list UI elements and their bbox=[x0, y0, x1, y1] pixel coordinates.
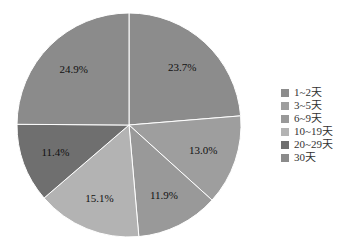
legend: 1~2天 3~5天 6~9天 10~19天 20~29天 30天 bbox=[281, 86, 333, 164]
pie-slices bbox=[17, 13, 241, 237]
pie-chart: 23.7%13.0%11.9%15.1%11.4%24.9% bbox=[0, 0, 260, 244]
slice-value-label: 13.0% bbox=[189, 144, 217, 156]
legend-swatch-icon bbox=[281, 128, 289, 136]
slice-value-label: 24.9% bbox=[60, 63, 88, 75]
legend-swatch-icon bbox=[281, 115, 289, 123]
legend-item-3-5-days: 3~5天 bbox=[281, 99, 333, 112]
legend-item-1-2-days: 1~2天 bbox=[281, 86, 333, 99]
legend-label: 10~19天 bbox=[294, 125, 333, 138]
slice-value-label: 23.7% bbox=[168, 61, 196, 73]
slice-value-label: 11.4% bbox=[41, 146, 69, 158]
slice-value-label: 15.1% bbox=[85, 192, 113, 204]
slice-value-label: 11.9% bbox=[150, 189, 178, 201]
legend-label: 3~5天 bbox=[294, 99, 322, 112]
legend-label: 1~2天 bbox=[294, 86, 322, 99]
legend-label: 30天 bbox=[294, 151, 316, 164]
legend-label: 20~29天 bbox=[294, 138, 333, 151]
legend-item-30-days: 30天 bbox=[281, 151, 333, 164]
legend-label: 6~9天 bbox=[294, 112, 322, 125]
legend-swatch-icon bbox=[281, 141, 289, 149]
legend-swatch-icon bbox=[281, 102, 289, 110]
legend-item-6-9-days: 6~9天 bbox=[281, 112, 333, 125]
legend-swatch-icon bbox=[281, 89, 289, 97]
legend-swatch-icon bbox=[281, 154, 289, 162]
legend-item-10-19-days: 10~19天 bbox=[281, 125, 333, 138]
legend-item-20-29-days: 20~29天 bbox=[281, 138, 333, 151]
